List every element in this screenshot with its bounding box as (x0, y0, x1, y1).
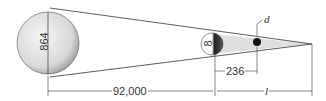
distance-236-label: 236 (225, 66, 245, 77)
umbra-length-label: l (264, 86, 269, 97)
sun-diameter-label: 864 (39, 31, 50, 51)
distance-92000-label: 92,000 (112, 86, 148, 97)
object-diameter-label: d (263, 14, 271, 25)
object-dot (253, 38, 261, 46)
earth-diameter-label: 8 (203, 39, 214, 47)
tangent-top (50, 8, 312, 44)
tangent-bottom (50, 44, 312, 77)
